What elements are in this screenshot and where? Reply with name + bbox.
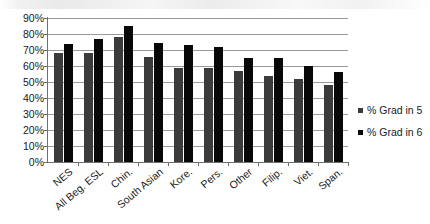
- bar: [214, 47, 223, 162]
- bar: [274, 58, 283, 162]
- bar-group: [318, 18, 348, 162]
- legend-label: % Grad in 5: [367, 104, 422, 116]
- x-axis-label: Other: [227, 166, 254, 191]
- x-axis-label: Viet.: [292, 166, 315, 188]
- x-axis-tick: [198, 162, 199, 166]
- x-axis-label-anchor: NES: [67, 166, 68, 167]
- bar: [294, 79, 303, 162]
- x-axis-label-anchor: All Beg. ESL: [97, 166, 98, 167]
- bar: [174, 68, 183, 162]
- y-axis-label: 60%: [23, 61, 44, 72]
- plot-area: [48, 18, 348, 162]
- y-axis-label: 40%: [23, 93, 44, 104]
- x-axis-tick: [258, 162, 259, 166]
- x-axis-label-anchor: Filip.: [277, 166, 278, 167]
- y-axis-label: 20%: [23, 125, 44, 136]
- bar: [94, 39, 103, 162]
- bar: [234, 71, 243, 162]
- bar-group: [258, 18, 288, 162]
- x-axis-tick: [318, 162, 319, 166]
- y-axis-label: 30%: [23, 109, 44, 120]
- bar-group: [78, 18, 108, 162]
- bar: [124, 26, 133, 162]
- x-axis-tick: [288, 162, 289, 166]
- legend-swatch-icon: [358, 108, 363, 113]
- y-axis-label: 70%: [23, 45, 44, 56]
- bar-group: [288, 18, 318, 162]
- y-axis-label: 80%: [23, 29, 44, 40]
- bar: [334, 72, 343, 162]
- bar: [144, 57, 153, 162]
- grouped-bar-chart: 90%80%70%60%50%40%30%20%10%0% NESAll Beg…: [0, 0, 430, 224]
- x-axis-label-anchor: Other: [247, 166, 248, 167]
- x-axis-tick: [78, 162, 79, 166]
- x-axis-tick: [228, 162, 229, 166]
- x-axis-label: Filip.: [261, 166, 285, 189]
- legend-label: % Grad in 6: [367, 126, 422, 138]
- x-axis-label-anchor: Viet.: [307, 166, 308, 167]
- bar: [64, 44, 73, 162]
- y-axis-label: 50%: [23, 77, 44, 88]
- bar: [304, 66, 313, 162]
- y-axis-tick: [44, 162, 48, 163]
- bar-group: [138, 18, 168, 162]
- bar: [184, 45, 193, 162]
- bar: [244, 58, 253, 162]
- x-axis-label: Span.: [317, 166, 345, 192]
- x-axis-tick: [348, 162, 349, 166]
- bar: [264, 76, 273, 162]
- bar-group: [168, 18, 198, 162]
- y-axis-label: 0%: [29, 157, 44, 168]
- bar: [154, 43, 163, 162]
- x-axis-tick: [108, 162, 109, 166]
- y-axis-label: 90%: [23, 13, 44, 24]
- x-axis-label: Kore.: [168, 166, 194, 191]
- x-axis-label-anchor: Pers.: [217, 166, 218, 167]
- x-axis-tick: [168, 162, 169, 166]
- bar: [84, 53, 93, 162]
- bar-group: [198, 18, 228, 162]
- bar-group: [48, 18, 78, 162]
- bar: [114, 37, 123, 162]
- bar-group: [108, 18, 138, 162]
- x-axis-label: Pers.: [199, 166, 225, 190]
- bar: [204, 68, 213, 162]
- x-axis-label: NES: [51, 166, 75, 188]
- legend-item[interactable]: % Grad in 6: [358, 126, 422, 138]
- bar: [54, 53, 63, 162]
- x-axis-label-anchor: Span.: [337, 166, 338, 167]
- bar: [324, 85, 333, 162]
- legend-item[interactable]: % Grad in 5: [358, 104, 422, 116]
- y-axis-label: 10%: [23, 141, 44, 152]
- x-axis-label-anchor: Chin.: [127, 166, 128, 167]
- bar-group: [228, 18, 258, 162]
- chart-legend: % Grad in 5% Grad in 6: [358, 104, 422, 148]
- x-axis-label-anchor: South Asian: [157, 166, 158, 167]
- legend-swatch-icon: [358, 130, 363, 135]
- x-axis-tick: [138, 162, 139, 166]
- x-axis-label-anchor: Kore.: [187, 166, 188, 167]
